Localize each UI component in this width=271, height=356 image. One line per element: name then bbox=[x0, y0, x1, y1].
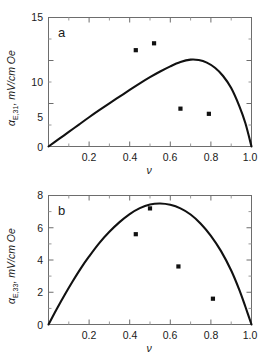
chart-panel-b: αE,33, mV/cm Oe 8 6 4 2 0 0.2 0.4 0.6 0.… bbox=[0, 178, 271, 356]
chart-panel-a: αE,31, mV/cm Oe 15 10 5 0 0.2 0.4 0.6 0.… bbox=[0, 0, 271, 178]
y-axis-title-a: αE,31, mV/cm Oe bbox=[5, 50, 19, 126]
chart-svg-a: αE,31, mV/cm Oe 15 10 5 0 0.2 0.4 0.6 0.… bbox=[0, 0, 271, 178]
y-axis-title-subscript-a: E,31 bbox=[12, 105, 19, 120]
x-tick-label-b-04: 0.4 bbox=[123, 329, 138, 341]
data-point-marker bbox=[134, 232, 138, 236]
data-point-marker bbox=[148, 206, 152, 210]
x-axis-title-a: ν bbox=[146, 164, 152, 176]
y-tick-label-a-15: 15 bbox=[31, 11, 43, 23]
data-point-marker bbox=[178, 107, 182, 111]
svg-text:αE,31, mV/cm Oe: αE,31, mV/cm Oe bbox=[5, 50, 19, 126]
y-tick-label-b-4: 4 bbox=[37, 254, 43, 266]
y-tick-label-b-6: 6 bbox=[37, 222, 43, 234]
x-tick-label-b-02: 0.2 bbox=[82, 329, 97, 341]
y-tick-label-a-0: 0 bbox=[37, 141, 43, 153]
y-axis-title-b: αE,33, mV/cm Oe bbox=[5, 228, 19, 304]
data-point-marker bbox=[134, 48, 138, 52]
axis-frame-a bbox=[49, 18, 252, 147]
y-axis-ticks-a bbox=[49, 18, 252, 147]
x-axis-ticks-b bbox=[69, 196, 252, 325]
x-axis-title-b: ν bbox=[146, 342, 152, 354]
y-axis-title-units-a: , mV/cm Oe bbox=[5, 50, 17, 106]
experiment-markers-b bbox=[134, 206, 215, 300]
chart-svg-b: αE,33, mV/cm Oe 8 6 4 2 0 0.2 0.4 0.6 0.… bbox=[0, 178, 271, 356]
panel-label-b: b bbox=[58, 203, 65, 218]
theory-curve-a bbox=[49, 59, 252, 146]
x-tick-label-b-06: 0.6 bbox=[163, 329, 178, 341]
figure-container: αE,31, mV/cm Oe 15 10 5 0 0.2 0.4 0.6 0.… bbox=[0, 0, 271, 356]
y-tick-label-b-0: 0 bbox=[37, 319, 43, 331]
y-tick-label-a-5: 5 bbox=[37, 111, 43, 123]
y-tick-label-b-2: 2 bbox=[37, 286, 43, 298]
y-tick-label-a-10: 10 bbox=[31, 76, 43, 88]
y-tick-label-b-8: 8 bbox=[37, 189, 43, 201]
x-tick-label-a-06: 0.6 bbox=[163, 151, 178, 163]
data-point-marker bbox=[211, 297, 215, 301]
x-tick-label-b-10: 1.0 bbox=[243, 329, 258, 341]
data-point-marker bbox=[207, 112, 211, 116]
data-point-marker bbox=[176, 264, 180, 268]
y-axis-title-units-b: , mV/cm Oe bbox=[5, 228, 17, 284]
axis-frame-b bbox=[49, 196, 252, 325]
svg-text:αE,33, mV/cm Oe: αE,33, mV/cm Oe bbox=[5, 228, 19, 304]
data-point-marker bbox=[152, 41, 156, 45]
panel-label-a: a bbox=[58, 25, 66, 40]
y-axis-ticks-b bbox=[49, 196, 252, 325]
x-tick-label-a-08: 0.8 bbox=[204, 151, 219, 163]
x-axis-ticks-a bbox=[69, 18, 252, 147]
theory-curve-b bbox=[49, 204, 252, 325]
x-tick-label-a-02: 0.2 bbox=[82, 151, 97, 163]
x-tick-label-a-10: 1.0 bbox=[243, 151, 258, 163]
y-axis-title-subscript-b: E,33 bbox=[12, 283, 19, 298]
experiment-markers-a bbox=[134, 41, 211, 116]
x-tick-label-a-04: 0.4 bbox=[123, 151, 138, 163]
x-tick-label-b-08: 0.8 bbox=[204, 329, 219, 341]
